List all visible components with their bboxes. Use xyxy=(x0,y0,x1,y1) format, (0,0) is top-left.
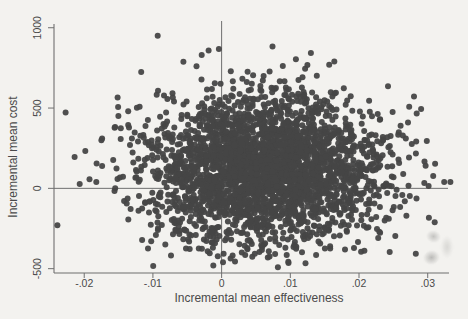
scatter-point xyxy=(228,68,234,74)
scatter-point xyxy=(223,150,229,156)
scatter-point xyxy=(223,128,229,134)
scatter-point xyxy=(211,202,217,208)
scatter-point xyxy=(269,107,275,113)
scatter-point xyxy=(380,137,386,143)
scatter-point xyxy=(269,126,275,132)
scatter-point xyxy=(333,114,339,120)
scatter-point xyxy=(218,81,224,87)
scatter-point xyxy=(317,223,323,229)
scatter-point xyxy=(290,113,296,119)
scatter-point xyxy=(278,142,284,148)
scatter-point xyxy=(155,213,161,219)
scatter-point xyxy=(328,105,334,111)
scatter-point xyxy=(72,154,78,160)
scatter-point xyxy=(177,141,183,147)
y-ticks: -50005001000 xyxy=(31,16,54,279)
scatter-point xyxy=(269,209,275,215)
x-tick-label: -.01 xyxy=(144,277,162,289)
scatter-point xyxy=(406,104,412,110)
scatter-point xyxy=(316,165,322,171)
scatter-point xyxy=(377,162,383,168)
scatter-point xyxy=(374,226,380,232)
scatter-point xyxy=(217,97,223,103)
scatter-point xyxy=(397,204,403,210)
scatter-point xyxy=(370,167,376,173)
scatter-point xyxy=(274,114,280,120)
scatter-point xyxy=(424,138,430,144)
scatter-point xyxy=(411,94,417,100)
scatter-point xyxy=(286,103,292,109)
scatter-point xyxy=(303,260,309,266)
scatter-point xyxy=(221,200,227,206)
scatter-point xyxy=(189,197,195,203)
scatter-point xyxy=(147,198,153,204)
scatter-point xyxy=(164,147,170,153)
scatter-point xyxy=(377,204,383,210)
scatter-point xyxy=(363,201,369,207)
scatter-point xyxy=(240,230,246,236)
scatter-point xyxy=(193,206,199,212)
scatter-point xyxy=(389,174,395,180)
scatter-point xyxy=(280,184,286,190)
scatter-point xyxy=(274,158,280,164)
scatter-point xyxy=(209,117,215,123)
scatter-point xyxy=(386,216,392,222)
scatter-point xyxy=(274,184,280,190)
scatter-point xyxy=(135,156,141,162)
scatter-point xyxy=(279,148,285,154)
scatter-point xyxy=(298,163,304,169)
scatter-point xyxy=(286,86,292,92)
scatter-point xyxy=(297,177,303,183)
scatter-point xyxy=(245,117,251,123)
scatter-point xyxy=(344,228,350,234)
scatter-point xyxy=(132,130,138,136)
scatter-point xyxy=(361,128,367,134)
scatter-point xyxy=(221,191,227,197)
scatter-point xyxy=(215,224,221,230)
scatter-point xyxy=(251,116,257,122)
scatter-point xyxy=(232,143,238,149)
scatter-point xyxy=(371,200,377,206)
scatter-point xyxy=(166,133,172,139)
scatter-point xyxy=(292,239,298,245)
scatter-point xyxy=(383,181,389,187)
scatter-point xyxy=(211,144,217,150)
scatter-point xyxy=(304,62,310,68)
scatter-point xyxy=(377,117,383,123)
scatter-point xyxy=(321,230,327,236)
scatter-point xyxy=(225,219,231,225)
scatter-point xyxy=(272,176,278,182)
scatter-point xyxy=(190,150,196,156)
scatter-point xyxy=(117,175,123,181)
scatter-point xyxy=(266,248,272,254)
y-tick-label: 1000 xyxy=(31,16,43,40)
scatter-point xyxy=(298,99,304,105)
scatter-point xyxy=(265,181,271,187)
scatter-point xyxy=(262,175,268,181)
scatter-point xyxy=(293,56,299,62)
scatter-point xyxy=(198,181,204,187)
scatter-point xyxy=(194,63,200,69)
scatter-point xyxy=(239,76,245,82)
scatter-point xyxy=(215,253,221,259)
scatter-point xyxy=(302,115,308,121)
scatter-point xyxy=(270,44,276,50)
scatter-point xyxy=(169,147,175,153)
scatter-point xyxy=(164,119,170,125)
scatter-point xyxy=(124,200,130,206)
scatter-point xyxy=(406,183,412,189)
scatter-point xyxy=(286,178,292,184)
scatter-point xyxy=(294,119,300,125)
scatter-point xyxy=(298,221,304,227)
scatter-point xyxy=(329,215,335,221)
scatter-point xyxy=(418,106,424,112)
scatter-point xyxy=(197,195,203,201)
scatter-point xyxy=(235,124,241,130)
scatter-point xyxy=(262,104,268,110)
scatter-point xyxy=(249,81,255,87)
scatter-point xyxy=(226,121,232,127)
scatter-point xyxy=(272,251,278,257)
y-tick-label: 0 xyxy=(31,185,43,191)
scatter-point xyxy=(389,183,395,189)
scatter-point xyxy=(359,212,365,218)
